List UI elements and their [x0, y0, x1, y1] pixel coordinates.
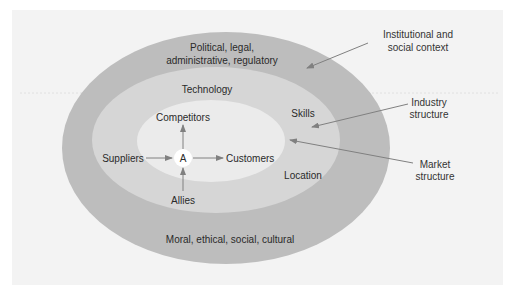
outer-top-label-line1: Political, legal,: [190, 42, 254, 53]
callout-industry-line2: structure: [410, 109, 449, 120]
outer-top-label-line2: administrative, regulatory: [166, 55, 278, 66]
inner-top-label: Competitors: [156, 112, 210, 123]
callout-market-line2: structure: [416, 171, 455, 182]
callout-institutional-line2: social context: [388, 42, 449, 53]
business-environment-diagram: Political, legal, administrative, regula…: [0, 0, 513, 294]
callout-institutional-line1: Institutional and: [383, 29, 453, 40]
inner-left-label: Suppliers: [102, 153, 144, 164]
callout-market-line1: Market: [420, 159, 451, 170]
middle-right-upper-label: Skills: [291, 108, 314, 119]
middle-right-lower-label: Location: [284, 170, 322, 181]
inner-bottom-label: Allies: [171, 195, 195, 206]
outer-bottom-label: Moral, ethical, social, cultural: [166, 234, 294, 245]
callout-industry-line1: Industry: [411, 97, 447, 108]
middle-top-label: Technology: [182, 84, 233, 95]
center-label: A: [180, 153, 187, 164]
inner-right-label: Customers: [226, 153, 274, 164]
